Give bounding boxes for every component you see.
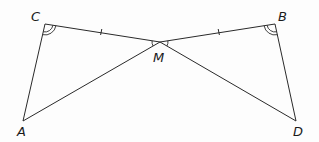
angle-arc-m-left <box>152 41 153 46</box>
segment-mb <box>160 24 275 42</box>
segment-ca <box>23 24 45 121</box>
diagram-svg: C B M A D <box>0 0 319 142</box>
label-b: B <box>278 9 287 24</box>
geometry-diagram: C B M A D <box>0 0 319 142</box>
label-d: D <box>293 124 303 139</box>
tick-mark-cm <box>101 29 102 35</box>
segment-cm <box>45 24 160 42</box>
label-m: M <box>153 50 164 65</box>
tick-mark-mb <box>218 29 219 35</box>
segment-am <box>23 42 160 121</box>
segment-bd <box>275 24 296 121</box>
segment-md <box>160 42 296 121</box>
label-a: A <box>16 124 26 139</box>
angle-arc-m-right <box>167 41 168 46</box>
label-c: C <box>31 9 41 24</box>
